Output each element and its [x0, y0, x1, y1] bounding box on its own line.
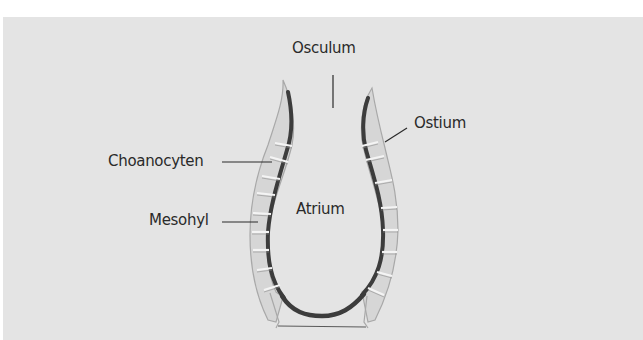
base-line [278, 326, 366, 327]
label-mesohyl: Mesohyl [149, 213, 209, 228]
label-osculum: Osculum [292, 41, 356, 56]
label-choanocyten: Choanocyten [108, 154, 203, 169]
ostium-leader-line [385, 128, 407, 142]
label-atrium: Atrium [296, 202, 345, 217]
label-ostium: Ostium [414, 116, 466, 131]
left-body-wall [250, 80, 294, 322]
right-body-wall [361, 88, 398, 322]
basal-choanocyte-layer [282, 294, 364, 316]
